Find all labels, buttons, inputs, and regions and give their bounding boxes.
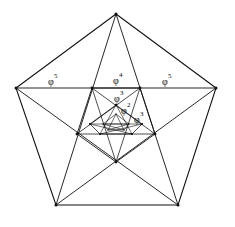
level4-diagonal-c <box>103 124 124 130</box>
outer-side-left <box>16 88 56 205</box>
pentagram-figure: φ5 φ4 φ5 φ3 φ2 φ3 <box>0 0 235 227</box>
level2-side-bottomright <box>116 134 155 162</box>
level2-side-left <box>77 88 92 134</box>
node-level3-left <box>89 123 91 125</box>
label-phi3-upper-exponent: 3 <box>120 89 124 97</box>
label-phi2-exponent: 2 <box>127 101 131 109</box>
level4-diagonal-d <box>108 124 129 130</box>
label-phi4: φ4 <box>113 71 122 87</box>
label-phi5-right: φ5 <box>162 72 171 88</box>
level4-side-nw <box>103 114 116 124</box>
label-phi3-upper-base: φ <box>114 93 120 104</box>
node-outer-apex <box>115 13 118 16</box>
label-phi5-left: φ5 <box>48 72 57 88</box>
level3-side-w <box>90 124 100 134</box>
node-level3-bottomright <box>131 133 133 135</box>
label-phi3-lower-exponent: 3 <box>140 110 144 118</box>
node-level2-right <box>154 133 157 136</box>
outer-side-right <box>178 88 216 205</box>
label-phi4-exponent: 4 <box>119 71 123 79</box>
label-phi5-right-exponent: 5 <box>168 72 172 80</box>
label-phi2: φ2 <box>121 101 130 117</box>
label-phi3-lower-base: φ <box>134 114 140 125</box>
level2-diagonal-d <box>77 88 140 134</box>
label-phi5-left-base: φ <box>48 76 54 87</box>
node-level3-bottomleft <box>99 133 101 135</box>
outer-side-apex-left <box>16 14 116 88</box>
pentagram-diagram-svg <box>0 0 235 227</box>
label-phi2-base: φ <box>121 105 127 116</box>
node-level2-topleft <box>91 87 94 90</box>
outer-diagonal-apex-bottomleft <box>56 14 116 205</box>
node-outer-left <box>15 87 18 90</box>
node-level2-bottom <box>115 161 118 164</box>
label-phi5-left-exponent: 5 <box>54 72 58 80</box>
label-phi5-right-base: φ <box>162 76 168 87</box>
label-phi4-base: φ <box>113 75 119 86</box>
label-phi3-lower: φ3 <box>134 110 143 126</box>
level2-side-bottomleft <box>77 134 116 162</box>
outer-diagonal-left-bottomright <box>16 88 178 205</box>
node-level2-topright <box>139 87 142 90</box>
node-outer-right <box>215 87 218 90</box>
node-level2-left <box>76 133 79 136</box>
node-outer-bottomright <box>177 204 180 207</box>
outer-diagonal-right-bottomleft <box>56 88 216 205</box>
node-outer-bottomleft <box>55 204 58 207</box>
